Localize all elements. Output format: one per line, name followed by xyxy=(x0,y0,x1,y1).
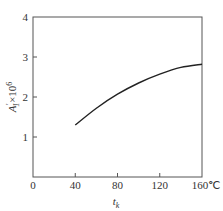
x-ticks: 04080120160℃ xyxy=(30,173,220,191)
chart: 04080120160℃ 1234 A′1×106 tk xyxy=(0,0,223,211)
y-tick-label: 1 xyxy=(23,131,29,143)
y-tick-label: 4 xyxy=(23,11,29,23)
x-tick-label: 80 xyxy=(112,179,124,191)
x-axis-label: tk xyxy=(113,195,120,210)
x-tick-label: 40 xyxy=(70,179,82,191)
x-tick-label: 0 xyxy=(30,179,36,191)
y-axis-label: A′1×106 xyxy=(5,82,21,114)
plot-frame xyxy=(33,17,202,177)
svg-text:A′1×106: A′1×106 xyxy=(5,82,21,114)
y-tick-label: 2 xyxy=(23,91,29,103)
x-tick-label: 160℃ xyxy=(192,179,221,191)
data-curve xyxy=(75,64,202,125)
y-tick-label: 3 xyxy=(23,51,29,63)
y-ticks: 1234 xyxy=(23,11,38,143)
x-tick-label: 120 xyxy=(152,179,169,191)
